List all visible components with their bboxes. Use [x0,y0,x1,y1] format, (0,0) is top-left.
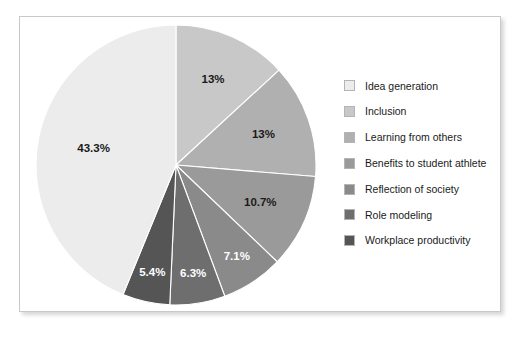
legend-item-label: Workplace productivity [365,235,470,246]
legend-item-label: Reflection of society [365,184,459,195]
legend-swatch-icon [344,132,355,143]
pie-slice-label: 10.7% [244,196,277,208]
legend-swatch-icon [344,184,355,195]
legend-item: Benefits to student athlete [344,150,494,176]
legend-swatch-icon [344,106,355,117]
legend-item-label: Inclusion [365,106,406,117]
legend-item-label: Idea generation [365,81,438,92]
legend-item: Workplace productivity [344,228,494,254]
legend-swatch-icon [344,209,355,220]
legend-item: Reflection of society [344,176,494,202]
legend-item-label: Benefits to student athlete [365,158,486,169]
pie-slice-label: 13% [252,128,275,140]
pie-slice-group [36,25,316,305]
legend-swatch-icon [344,158,355,169]
legend-item: Inclusion [344,99,494,125]
legend-item: Role modeling [344,202,494,228]
pie-slice-label: 7.1% [224,250,250,262]
pie-slice-label: 6.3% [180,267,206,279]
chart-legend: Idea generationInclusionLearning from ot… [344,73,494,254]
plot-area: 13%13%10.7%7.1%6.3%5.4%43.3% Idea genera… [20,17,502,313]
legend-swatch-icon [344,235,355,246]
pie-slice-label: 5.4% [139,266,165,278]
pie-svg: 13%13%10.7%7.1%6.3%5.4%43.3% [34,23,318,307]
pie-chart: 13%13%10.7%7.1%6.3%5.4%43.3% [34,23,318,307]
pie-slice-label: 43.3% [77,142,110,154]
legend-swatch-icon [344,80,355,91]
legend-item: Idea generation [344,73,494,99]
pie-slice-label: 13% [202,73,225,85]
legend-item: Learning from others [344,125,494,151]
chart-card: 13%13%10.7%7.1%6.3%5.4%43.3% Idea genera… [19,16,501,312]
legend-item-label: Role modeling [365,210,432,221]
legend-item-label: Learning from others [365,132,462,143]
